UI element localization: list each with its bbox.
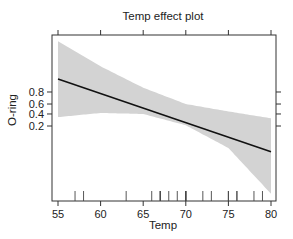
- effect-plot: Temp effect plot 556065707580 0.20.40.60…: [0, 0, 293, 239]
- confidence-band: [58, 41, 271, 193]
- x-tick-label: 55: [52, 208, 64, 220]
- x-tick-label: 75: [222, 208, 234, 220]
- confidence-band-layer: [58, 41, 271, 193]
- y-tick-label: 0.8: [29, 86, 44, 98]
- rug-marks: [75, 191, 262, 201]
- x-tick-label: 70: [180, 208, 192, 220]
- y-tick-label: 0.6: [29, 98, 44, 110]
- chart-title: Temp effect plot: [123, 10, 205, 22]
- y-tick-label: 0.2: [29, 120, 44, 132]
- x-tick-label: 80: [265, 208, 277, 220]
- x-tick-label: 65: [137, 208, 149, 220]
- x-axis-label: Temp: [149, 219, 177, 231]
- y-axis-label: O-ring: [6, 94, 18, 126]
- x-tick-label: 60: [94, 208, 106, 220]
